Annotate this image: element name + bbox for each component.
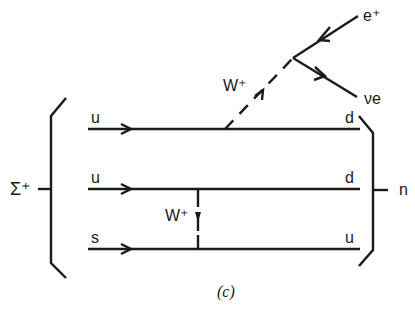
arrow-down-icon [195, 212, 201, 222]
neutrino-line [293, 58, 357, 97]
sigma-plus-label: Σ⁺ [10, 180, 31, 198]
feynman-diagram-canvas [0, 0, 415, 309]
sigma-bracket [51, 98, 66, 278]
quark-in-1: u [91, 110, 100, 126]
neutrino-label: νe [364, 91, 381, 107]
quark-out-1: d [345, 110, 354, 126]
quark-in-2: u [91, 170, 100, 186]
quark-out-2: d [345, 170, 354, 186]
figure-caption: (c) [217, 284, 235, 300]
positron-label: e⁺ [363, 8, 380, 24]
w-boson-inner-label: W⁺ [165, 208, 188, 224]
quark-in-3: s [91, 230, 99, 246]
neutron-bracket [359, 116, 373, 266]
positron-line [293, 16, 358, 58]
quark-out-3: u [345, 230, 354, 246]
neutron-label: n [399, 182, 408, 198]
w-boson-upper-label: W⁺ [223, 78, 246, 94]
